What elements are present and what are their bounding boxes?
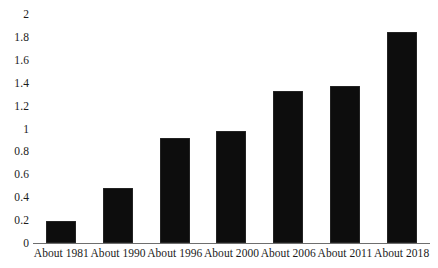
bar-slot xyxy=(373,14,430,243)
bar[interactable] xyxy=(216,131,246,243)
bar[interactable] xyxy=(387,32,417,243)
bars-layer xyxy=(33,14,430,243)
y-tick-label: 0.6 xyxy=(14,169,29,180)
bar-slot xyxy=(146,14,203,243)
x-tick-label: About 2006 xyxy=(260,246,317,261)
x-tick-label: About 2011 xyxy=(317,246,374,261)
bar[interactable] xyxy=(46,221,76,243)
bar-slot xyxy=(203,14,260,243)
y-tick-label: 0 xyxy=(23,238,29,249)
y-tick-label: 0.4 xyxy=(14,192,29,203)
bar[interactable] xyxy=(160,138,190,243)
plot-area xyxy=(33,14,430,243)
y-tick-label: 1.2 xyxy=(14,100,29,111)
y-tick-label: 0.2 xyxy=(14,215,29,226)
y-tick-label: 1.6 xyxy=(14,54,29,65)
bar-slot xyxy=(317,14,374,243)
x-tick-label: About 1990 xyxy=(90,246,147,261)
x-axis: About 1981About 1990About 1996About 2000… xyxy=(33,246,430,266)
bar[interactable] xyxy=(103,188,133,243)
bar-slot xyxy=(90,14,147,243)
x-tick-label: About 1996 xyxy=(146,246,203,261)
y-tick-label: 1.4 xyxy=(14,77,29,88)
x-tick-label: About 1981 xyxy=(33,246,90,261)
x-tick-label: About 2000 xyxy=(203,246,260,261)
bar-chart: 00.20.40.60.811.21.41.61.82 About 1981Ab… xyxy=(0,0,438,268)
bar-slot xyxy=(33,14,90,243)
bar-slot xyxy=(260,14,317,243)
y-tick-label: 0.8 xyxy=(14,146,29,157)
y-axis: 00.20.40.60.811.21.41.61.82 xyxy=(0,0,34,268)
x-tick-label: About 2018 xyxy=(373,246,430,261)
y-tick-label: 2 xyxy=(23,9,29,20)
bar[interactable] xyxy=(273,91,303,243)
x-axis-line xyxy=(33,243,430,244)
y-tick-label: 1.8 xyxy=(14,31,29,42)
bar[interactable] xyxy=(330,86,360,243)
y-tick-label: 1 xyxy=(23,123,29,134)
